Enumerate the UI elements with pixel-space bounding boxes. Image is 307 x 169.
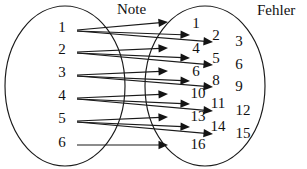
fehler-node-14: 15 — [236, 125, 251, 141]
fehler-node-15: 16 — [191, 136, 207, 152]
fehler-node-3: 4 — [192, 40, 200, 56]
fehler-node-2: 3 — [235, 33, 243, 49]
mapping-diagram: 123456 12345668910111213141516 Note Fehl… — [0, 0, 307, 169]
edge-2-4-arrowhead-icon — [158, 44, 168, 52]
diagram-canvas: 123456 12345668910111213141516 Note Fehl… — [0, 0, 307, 169]
note-node-3: 4 — [58, 87, 66, 103]
edge-1-2 — [77, 30, 190, 38]
fehler-node-10: 11 — [211, 95, 225, 111]
note-node-2: 3 — [58, 64, 66, 80]
right-node-layer: 12345668910111213141516 — [191, 15, 251, 152]
fehler-node-8: 9 — [235, 78, 243, 94]
note-node-1: 2 — [58, 41, 66, 57]
edge-4-10-shaft — [77, 94, 161, 98]
edge-1-1-shaft — [77, 23, 161, 30]
edge-1-2-shaft — [77, 31, 183, 35]
fehler-node-7: 8 — [212, 72, 220, 88]
fehler-node-9: 10 — [191, 85, 206, 101]
edge-1-2-arrowhead-icon — [180, 30, 190, 38]
note-node-4: 5 — [58, 110, 66, 126]
fehler-node-11: 12 — [236, 102, 251, 118]
fehler-node-13: 14 — [211, 118, 227, 134]
edge-3-6-arrowhead-icon — [158, 67, 168, 75]
edge-3-6 — [77, 67, 168, 75]
note-node-5: 6 — [58, 134, 66, 150]
right-set-label: Fehler — [257, 2, 295, 18]
left-node-layer: 123456 — [58, 19, 66, 150]
edge-2-5-arrowhead-icon — [180, 53, 190, 61]
note-node-0: 1 — [58, 19, 66, 35]
edge-4-10-arrowhead-icon — [158, 90, 168, 98]
fehler-node-1: 2 — [212, 27, 220, 43]
edge-2-4 — [77, 44, 168, 52]
edge-5-14-arrowhead-icon — [180, 122, 190, 130]
edge-4-10 — [77, 90, 168, 98]
fehler-node-4: 5 — [212, 50, 220, 66]
fehler-node-5: 6 — [235, 56, 243, 72]
edge-5-14-shaft — [77, 122, 183, 127]
edge-4-11-arrowhead-icon — [180, 99, 190, 107]
fehler-node-0: 1 — [192, 15, 200, 31]
edge-1-1 — [77, 19, 168, 30]
edge-5-13-arrowhead-icon — [158, 113, 168, 121]
left-set-label: Note — [117, 1, 147, 17]
edge-1-1-arrowhead-icon — [158, 19, 168, 27]
edge-4-11-shaft — [77, 99, 183, 104]
edge-5-13 — [77, 113, 168, 121]
edge-6-16 — [77, 141, 168, 149]
fehler-node-6: 6 — [192, 63, 200, 79]
edge-3-6-shaft — [77, 71, 161, 75]
edge-3-8-arrowhead-icon — [180, 76, 190, 84]
fehler-node-12: 13 — [191, 108, 206, 124]
edge-2-5-shaft — [77, 53, 183, 58]
